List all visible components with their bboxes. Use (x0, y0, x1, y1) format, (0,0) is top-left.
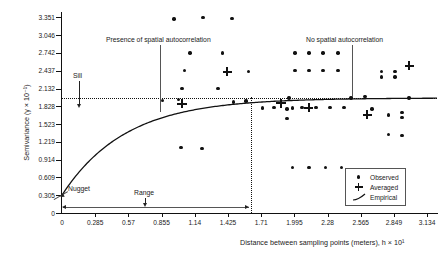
observed-marker (307, 166, 310, 169)
annotation-nugget: Nugget (68, 185, 90, 192)
legend-label-observed: Observed (370, 174, 399, 181)
observed-marker (291, 106, 294, 109)
annotation-presence-leader-line (160, 45, 161, 112)
observed-marker (272, 106, 275, 109)
observed-marker (324, 166, 327, 169)
observed-marker (370, 107, 373, 110)
observed-marker (328, 106, 331, 109)
observed-marker (161, 99, 164, 102)
observed-marker (285, 117, 288, 120)
observed-marker (172, 17, 175, 20)
observed-marker (387, 113, 390, 116)
semivariogram-figure: Semivariance (γ × 10⁻¹) Distance between… (0, 0, 443, 257)
observed-marker (400, 116, 403, 119)
observed-marker (261, 106, 264, 109)
sill-arrow-shaft (79, 81, 80, 105)
annotation-no-spatial-autocorrelation: No spatial autocorrelation (306, 36, 383, 43)
observed-marker (307, 69, 310, 72)
sill-arrow-head (77, 104, 81, 108)
observed-marker (179, 146, 182, 149)
observed-marker (380, 75, 383, 78)
observed-marker (400, 134, 403, 137)
averaged-plus-icon (351, 182, 367, 192)
observed-marker (230, 17, 233, 20)
legend-label-empirical: Empirical (370, 194, 397, 201)
observed-marker (232, 100, 235, 103)
observed-marker (200, 147, 203, 150)
annotation-sill: Sill (73, 72, 82, 79)
observed-marker (201, 16, 204, 19)
observed-marker (188, 51, 191, 54)
annotation-presence-spatial-autocorrelation: Presence of spatial autocorrelation (106, 36, 211, 43)
empirical-line-icon (351, 192, 367, 202)
observed-marker (287, 96, 290, 99)
legend-label-averaged: Averaged (370, 184, 398, 191)
observed-marker (314, 106, 317, 109)
observed-marker (307, 51, 310, 54)
range-span-line (63, 207, 249, 208)
observed-marker (293, 51, 296, 54)
observed-marker (321, 51, 324, 54)
observed-marker (393, 75, 396, 78)
annotation-no-autocorrelation-leader-line (352, 45, 353, 97)
observed-marker (244, 99, 247, 102)
observed-marker (321, 69, 324, 72)
observed-marker (342, 106, 345, 109)
observed-marker (336, 69, 339, 72)
legend: Observed Averaged Empirical (345, 168, 406, 206)
observed-marker (293, 69, 296, 72)
legend-item-observed: Observed (351, 172, 399, 182)
range-span-arrow-right (245, 205, 249, 209)
observed-marker (336, 51, 339, 54)
observed-marker (300, 106, 303, 109)
observed-dot-icon (351, 172, 367, 182)
observed-marker (363, 95, 366, 98)
legend-item-averaged: Averaged (351, 182, 399, 192)
observed-marker (180, 87, 183, 90)
annotation-range: Range (134, 189, 154, 196)
observed-marker (407, 96, 410, 99)
range-span-arrow-left (62, 205, 66, 209)
legend-item-empirical: Empirical (351, 192, 399, 202)
observed-marker (349, 96, 352, 99)
observed-marker (285, 107, 288, 110)
